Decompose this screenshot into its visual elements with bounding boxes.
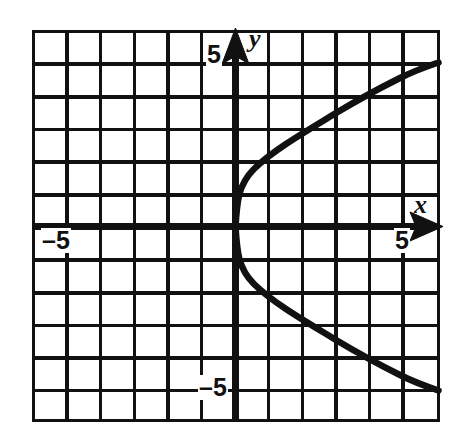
x-axis-label: x xyxy=(414,192,427,218)
plot-canvas xyxy=(0,0,461,448)
x-axis-tick-label-negative-5: –5 xyxy=(41,228,71,253)
y-axis-tick-label-positive-5: 5 xyxy=(206,42,222,67)
y-axis-label: y xyxy=(249,26,261,52)
x-axis-tick-label-positive-5: 5 xyxy=(394,228,410,253)
y-axis-tick-label-negative-5: –5 xyxy=(198,375,228,400)
coordinate-grid-graph: y x 5 –5 –5 5 xyxy=(0,0,461,448)
